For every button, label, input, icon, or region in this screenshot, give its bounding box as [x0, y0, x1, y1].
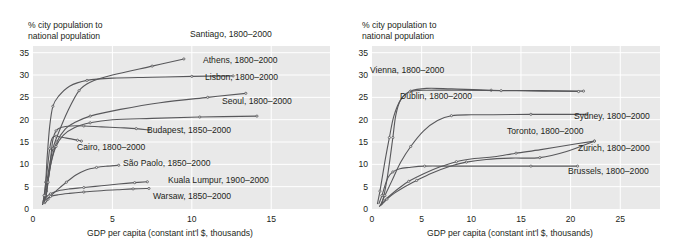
series-label: Budapest, 1850–2000: [147, 125, 231, 135]
panel-left: % city population to national population…: [0, 0, 340, 247]
series-label: Brussels, 1800–2000: [568, 166, 649, 176]
series-label: Toronto, 1800–2000: [507, 126, 584, 136]
series-label: Dublin, 1800–2000: [400, 91, 472, 101]
x-tick-label: 20: [566, 214, 576, 224]
series-label: Warsaw, 1850–2000: [153, 191, 231, 201]
series-label: Vienna, 1800–2000: [370, 65, 445, 75]
y-tick-label: 25: [19, 92, 29, 102]
y-tick-label: 5: [24, 182, 29, 192]
series-label: Zurich, 1800–2000: [578, 143, 650, 153]
y-tick-label: 30: [358, 70, 368, 80]
series-label: Kuala Lumpur, 1900–2000: [168, 175, 269, 185]
x-axis-title-right: GDP per capita (constant int'l $, thousa…: [340, 228, 680, 239]
y-tick-label: 10: [358, 159, 368, 169]
x-tick-label: 0: [31, 214, 36, 224]
y-tick-label: 30: [19, 70, 29, 80]
x-tick-label: 0: [370, 214, 375, 224]
x-tick-label: 25: [615, 214, 625, 224]
series-label: Athens, 1800–2000: [203, 55, 278, 65]
y-tick-label: 0: [363, 204, 368, 214]
y-tick-label: 35: [19, 48, 29, 58]
x-tick-label: 10: [467, 214, 477, 224]
y-tick-label: 15: [358, 137, 368, 147]
y-tick-label: 10: [19, 159, 29, 169]
x-tick-label: 5: [110, 214, 115, 224]
x-axis-title-left: GDP per capita (constant int'l $, thousa…: [0, 228, 340, 239]
series-label: Seoul, 1800–2000: [222, 96, 292, 106]
y-tick-label: 20: [358, 115, 368, 125]
y-tick-label: 25: [358, 92, 368, 102]
plot-area-left: 05101520253035051015Santiago, 1800–2000A…: [0, 0, 340, 247]
series-label: Cairo, 1800–2000: [77, 142, 146, 152]
x-tick-label: 15: [266, 214, 276, 224]
y-tick-label: 5: [363, 182, 368, 192]
panel-right: % city population to national population…: [340, 0, 680, 247]
series-label: Lisbon, 1800–2000: [205, 72, 278, 82]
x-tick-label: 10: [187, 214, 197, 224]
plot-area-right: 051015202530350510152025Vienna, 1800–200…: [340, 0, 680, 247]
x-tick-label: 5: [419, 214, 424, 224]
series-label: São Paolo, 1850–2000: [123, 158, 211, 168]
y-tick-label: 15: [19, 137, 29, 147]
y-tick-label: 35: [358, 48, 368, 58]
series-label: Sydney, 1800–2000: [574, 111, 650, 121]
series-label: Santiago, 1800–2000: [190, 29, 272, 39]
figure-two-panel-chart: % city population to national population…: [0, 0, 680, 247]
x-tick-label: 15: [516, 214, 526, 224]
y-tick-label: 0: [24, 204, 29, 214]
y-tick-label: 20: [19, 115, 29, 125]
